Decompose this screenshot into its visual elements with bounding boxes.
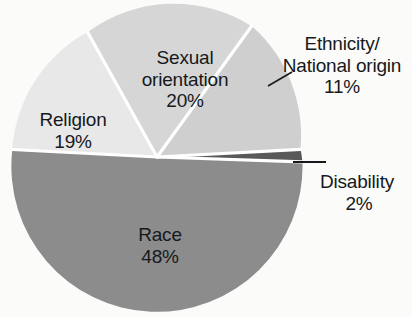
pie-label-disability-text: Disability [320, 171, 394, 192]
pie-label-ethnicity-text: Ethnicity/ National origin [283, 33, 401, 75]
pie-label-religion-value: 19% [18, 131, 128, 152]
pie-label-religion-text: Religion [39, 109, 106, 130]
pie-label-ethnicity-value: 11% [272, 76, 412, 97]
pie-label-sexual-orientation-value: 20% [120, 90, 250, 111]
pie-label-ethnicity: Ethnicity/ National origin 11% [272, 12, 412, 118]
pie-label-race: Race 48% [95, 203, 225, 288]
pie-chart: Sexual orientation 20% Ethnicity/ Nation… [0, 0, 412, 317]
pie-label-disability: Disability 2% [320, 150, 412, 235]
pie-label-race-text: Race [138, 224, 182, 245]
pie-label-disability-value: 2% [320, 193, 412, 214]
pie-label-sexual-orientation: Sexual orientation 20% [120, 26, 250, 132]
pie-label-religion: Religion 19% [18, 88, 128, 173]
pie-label-race-value: 48% [95, 246, 225, 267]
pie-label-sexual-orientation-text: Sexual orientation [142, 47, 229, 89]
